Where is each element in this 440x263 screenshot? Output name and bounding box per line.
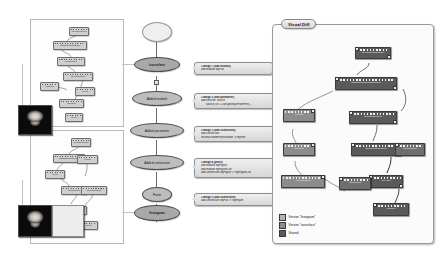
tree-node-label: isosurface <box>149 63 165 67</box>
module-label: vtkContourFilter <box>350 115 396 118</box>
tree-node-added-connection[interactable]: Added connection <box>130 155 184 170</box>
tree-node-label: Paste <box>153 193 161 197</box>
skull-render-icon <box>23 109 47 131</box>
module-label: vtkActor <box>76 90 94 92</box>
module-node[interactable]: vtkPolyDataMapper <box>63 72 93 81</box>
port-pin <box>399 184 403 188</box>
legend-swatch-isosurface <box>279 222 286 229</box>
module-node[interactable]: vtkRenderer <box>59 99 84 108</box>
module-label: vtkStructuredPointsReader <box>54 44 86 46</box>
module-node[interactable]: vtkPolyDataMapper <box>81 186 107 195</box>
module-label: MyFigureCell <box>282 179 324 182</box>
module-label: vtkRenderer <box>60 102 83 104</box>
change-line: add module MyPlot <box>201 68 269 71</box>
module-node[interactable]: vtkCamera <box>40 82 59 91</box>
tree-node-histogram[interactable]: histogram <box>134 205 180 221</box>
module-label: vtkPolyDataMapper <box>82 189 106 191</box>
module-label: vtkCamera <box>340 181 370 184</box>
tree-node-label: Added parameter <box>145 129 170 133</box>
visual-diff-panel[interactable]: Visual Diff vtkVolume16Reader vtkStru <box>272 24 434 244</box>
legend-label: Version "histogram" <box>289 215 316 219</box>
legend-label: Version "isosurface" <box>289 223 316 227</box>
module-label: VTKCell <box>66 116 82 118</box>
module-node[interactable]: vtkContourFilter <box>57 57 85 66</box>
thumbnail-histogram[interactable] <box>18 205 52 237</box>
diff-module-node[interactable]: vtkCamera <box>339 177 371 190</box>
legend-row-isosurface: Version "isosurface" <box>279 222 316 229</box>
module-label: vtkRenderer <box>396 147 424 150</box>
tree-node-label: Added module <box>147 97 168 101</box>
legend-swatch-histogram <box>279 214 286 221</box>
change-line: add connection MyFigure -> MyFigureCell <box>201 171 275 174</box>
port-pin <box>351 143 355 147</box>
module-label: MyPlot <box>46 173 64 175</box>
change-callout-5[interactable]: Change 5 (add connection) add connection… <box>194 193 275 206</box>
diff-connections <box>273 25 433 243</box>
module-node[interactable]: MyFigure <box>77 155 98 164</box>
tree-node-paste[interactable]: Paste <box>142 187 172 202</box>
tree-node-label: Added connection <box>144 161 170 165</box>
legend-swatch-shared <box>279 230 286 237</box>
diff-module-node[interactable]: vtkRenderer <box>395 143 425 156</box>
module-node[interactable]: VTKCell <box>65 113 83 122</box>
module-node[interactable]: MyPlot <box>45 170 65 179</box>
legend-row-shared: Shared <box>279 230 316 237</box>
port-pin <box>349 111 353 115</box>
port-pin <box>335 77 339 81</box>
diff-module-node[interactable]: vtkActor <box>369 175 403 188</box>
port-pin <box>373 203 377 207</box>
legend-row-histogram: Version "histogram" <box>279 214 316 221</box>
diff-module-node[interactable]: MyPlot <box>283 109 315 122</box>
module-label: vtkVolume16Reader <box>70 30 88 32</box>
version-tree[interactable]: isosurface Added module Added parameter … <box>126 14 188 246</box>
change-line: vtkStructuredPointsReader -> MyPlot <box>201 136 275 139</box>
port-pin <box>339 177 343 181</box>
skull-render-icon <box>23 209 47 233</box>
thumbnail-histogram-plot[interactable] <box>52 205 84 237</box>
tree-node-root[interactable] <box>142 22 172 42</box>
diff-module-node[interactable]: vtkVolume16Reader <box>355 47 391 59</box>
module-label: MyFigure <box>284 147 314 150</box>
version-tag-icon <box>154 80 159 85</box>
change-callout-2[interactable]: Change 2 (add parameter) add function 's… <box>194 93 279 109</box>
module-label: vtkCamera <box>41 85 58 87</box>
module-label: vtkPolyDataMapper <box>352 147 400 150</box>
screenshot-root: vtkVolume16Reader vtkStructuredPointsRea… <box>0 0 440 263</box>
module-node[interactable]: vtkActor <box>75 87 95 96</box>
module-node[interactable]: vtkVolume16Reader <box>69 27 89 36</box>
change-line: source('src' = self.getInputFromPort(... <box>201 103 275 106</box>
change-line: add connection MyPlot -> MyFigure <box>201 199 271 202</box>
module-label: MyPlot <box>284 113 314 116</box>
port-pin <box>387 55 391 59</box>
diff-module-node[interactable]: MyFigureCell <box>281 175 325 188</box>
tree-node-isosurface[interactable]: isosurface <box>134 57 180 72</box>
diff-module-node[interactable]: vtkContourFilter <box>349 111 397 124</box>
diff-module-node[interactable]: vtkPolyDataMapper <box>351 143 401 156</box>
diff-module-node[interactable]: VTKCell <box>373 203 409 216</box>
port-pin <box>311 143 315 147</box>
visual-diff-legend: Version "histogram" Version "isosurface"… <box>279 214 316 238</box>
module-label: vtkContourFilter <box>58 60 84 62</box>
module-label: MyFigure <box>78 158 97 160</box>
diff-module-node[interactable]: MyFigure <box>283 143 315 156</box>
change-callout-4[interactable]: Change 4 (paste) add module MyFigure add… <box>194 158 279 178</box>
module-label: vtkVolume16Reader <box>356 51 390 54</box>
module-node[interactable]: vtkVolume16Reader <box>71 138 91 147</box>
legend-label: Shared <box>289 231 299 235</box>
port-pin <box>393 120 397 124</box>
change-callout-3[interactable]: Change 3 (add connection) add connection… <box>194 126 279 142</box>
module-label: VTKCell <box>374 207 408 210</box>
port-pin <box>321 175 325 179</box>
port-pin <box>393 86 397 90</box>
tree-node-label: histogram <box>149 211 164 215</box>
change-callout-1[interactable]: Change 1 (add module) add module MyPlot <box>194 62 273 75</box>
module-node[interactable]: vtkStructuredPointsReader <box>53 41 87 50</box>
port-pin <box>311 109 315 113</box>
tree-node-added-parameter[interactable]: Added parameter <box>130 123 184 138</box>
module-label: vtkVolume16Reader <box>72 141 90 143</box>
port-pin <box>355 47 359 51</box>
thumbnail-isosurface[interactable] <box>18 105 52 135</box>
diff-module-node[interactable]: vtkStructuredPointsReader <box>335 77 397 90</box>
module-label: vtkPolyDataMapper <box>64 75 92 77</box>
tree-node-added-module[interactable]: Added module <box>132 91 182 106</box>
